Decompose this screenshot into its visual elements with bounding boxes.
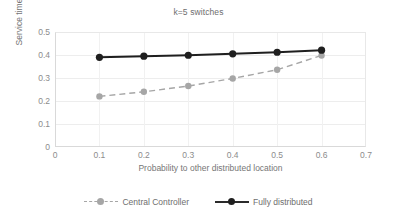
legend-marker-icon xyxy=(215,196,249,207)
data-point-marker xyxy=(229,50,236,57)
data-point-marker xyxy=(318,47,325,54)
legend-label: Fully distributed xyxy=(253,197,313,207)
y-tick-label: 0.5 xyxy=(24,28,50,37)
x-tick-label: 0.5 xyxy=(262,151,292,160)
series-line xyxy=(99,50,321,57)
x-tick-label: 0.3 xyxy=(173,151,203,160)
y-tick-label: 0.1 xyxy=(24,120,50,129)
data-point-marker xyxy=(141,89,147,95)
data-point-marker xyxy=(96,54,103,61)
x-tick-label: 0.6 xyxy=(307,151,337,160)
series-layer xyxy=(55,32,366,147)
legend-entry[interactable]: Central Controller xyxy=(84,196,189,207)
data-point-marker xyxy=(185,52,192,59)
data-point-marker xyxy=(274,67,280,73)
plot-area xyxy=(55,32,366,147)
y-tick-label: 0.4 xyxy=(24,51,50,60)
legend-label: Central Controller xyxy=(122,197,189,207)
y-tick-label: 0.2 xyxy=(24,97,50,106)
data-point-marker xyxy=(274,49,281,56)
data-point-marker xyxy=(230,75,236,81)
x-tick-label: 0.2 xyxy=(129,151,159,160)
series-line xyxy=(99,55,321,96)
data-point-marker xyxy=(185,83,191,89)
chart-legend: Central ControllerFully distributed xyxy=(0,196,397,207)
x-axis-title: Probability to other distributed locatio… xyxy=(55,163,366,173)
x-tick-label: 0.4 xyxy=(218,151,248,160)
chart-container: k=5 switches Service time 00.10.20.30.40… xyxy=(0,0,397,223)
chart-title: k=5 switches xyxy=(0,7,397,17)
y-tick-label: 0.3 xyxy=(24,74,50,83)
data-point-marker xyxy=(140,53,147,60)
legend-entry[interactable]: Fully distributed xyxy=(215,196,313,207)
x-tick-label: 0.1 xyxy=(84,151,114,160)
x-tick-label: 0.7 xyxy=(351,151,381,160)
data-point-marker xyxy=(96,93,102,99)
x-tick-label: 0 xyxy=(40,151,70,160)
legend-marker-icon xyxy=(84,196,118,207)
